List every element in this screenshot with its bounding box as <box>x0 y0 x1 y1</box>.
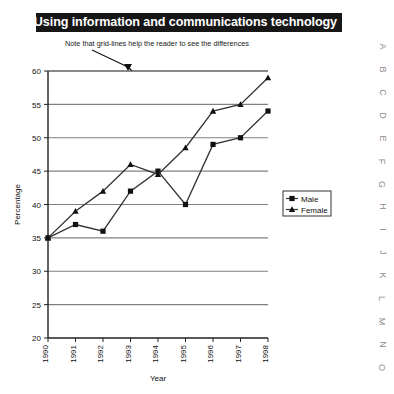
y-axis-tick-label: 30 <box>32 267 41 276</box>
y-axis-title: Percentage <box>13 183 22 224</box>
x-axis-tick-label: 1992 <box>96 344 105 362</box>
chart-page: Using information and communications tec… <box>0 0 394 394</box>
data-point-male <box>265 108 270 113</box>
margin-letter: D <box>378 112 387 119</box>
x-axis-tick-label: 1994 <box>151 344 160 362</box>
margin-letter: G <box>377 181 386 188</box>
margin-letter: L <box>377 296 386 301</box>
x-axis-tick-label: 1998 <box>261 344 270 362</box>
x-axis-tick-label: 1995 <box>179 344 188 362</box>
y-axis-tick-label: 20 <box>32 334 41 343</box>
margin-letter: E <box>377 135 386 141</box>
x-axis-tick-label: 1993 <box>124 344 133 362</box>
margin-letter-column: ABCDEFGHIJKLMNO <box>372 42 392 372</box>
margin-letter: N <box>378 341 387 348</box>
data-point-male <box>73 222 78 227</box>
x-axis-tick-label: 1991 <box>69 344 78 362</box>
y-axis-tick-label: 25 <box>32 301 41 310</box>
annotation-arrow-line <box>92 50 130 68</box>
margin-letter: K <box>377 273 386 279</box>
y-axis-tick-label: 60 <box>32 67 41 76</box>
data-point-male <box>128 189 133 194</box>
margin-letter: O <box>377 364 386 371</box>
data-point-male <box>100 229 105 234</box>
margin-letter: H <box>378 204 387 211</box>
margin-letter: B <box>377 66 386 72</box>
data-point-female <box>265 74 271 80</box>
series-line-female <box>48 78 268 238</box>
line-chart: 2025303540455055601990199119921993199419… <box>0 0 394 394</box>
margin-letter: M <box>378 318 387 326</box>
x-axis-tick-label: 1990 <box>41 344 50 362</box>
margin-letter: C <box>378 89 387 96</box>
legend-label-male: Male <box>301 195 319 204</box>
x-axis-tick-label: 1996 <box>206 344 215 362</box>
margin-letter: F <box>378 158 387 164</box>
data-point-male <box>210 142 215 147</box>
margin-letter: A <box>377 43 386 49</box>
legend-label-female: Female <box>301 206 328 215</box>
data-point-male <box>183 202 188 207</box>
x-axis-title: Year <box>150 374 167 383</box>
margin-letter: J <box>378 251 387 256</box>
y-axis-tick-label: 35 <box>32 234 41 243</box>
y-axis-tick-label: 40 <box>32 201 41 210</box>
data-point-male <box>238 135 243 140</box>
y-axis-tick-label: 55 <box>32 101 41 110</box>
legend-marker-male <box>289 196 294 201</box>
margin-letter: I <box>377 229 386 232</box>
y-axis-tick-label: 50 <box>32 134 41 143</box>
x-axis-tick-label: 1997 <box>234 344 243 362</box>
y-axis-tick-label: 45 <box>32 167 41 176</box>
data-point-female <box>127 161 133 167</box>
